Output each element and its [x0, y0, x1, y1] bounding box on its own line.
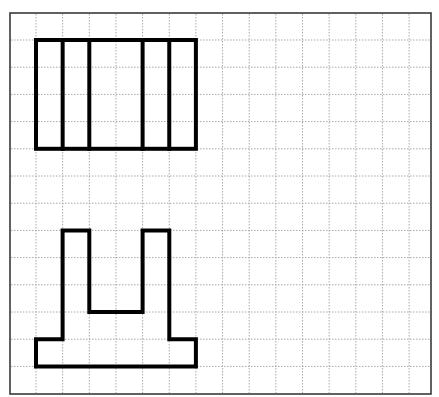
grid-diagram [0, 0, 439, 397]
diagram-frame [10, 13, 431, 394]
